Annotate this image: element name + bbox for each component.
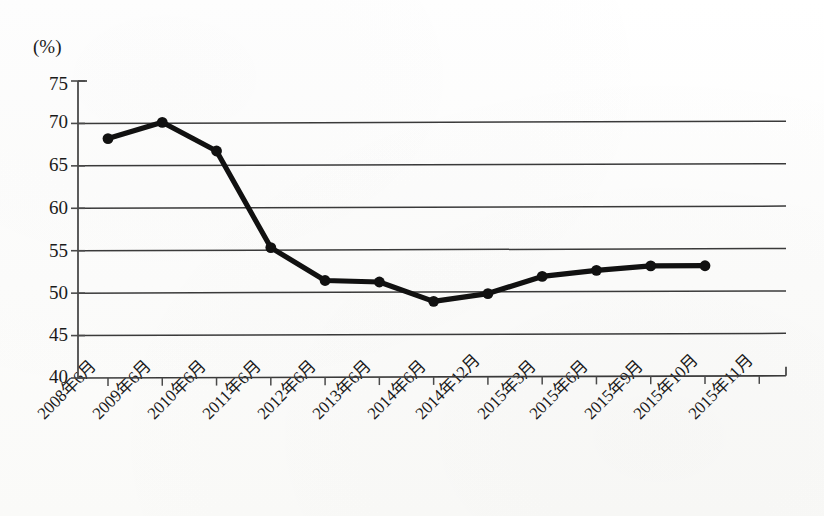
gridline-50 <box>78 291 786 293</box>
chart-container: (%) 75 70 65 60 55 50 45 40 2008年6月 2009… <box>0 0 824 516</box>
data-point-3 <box>265 242 276 253</box>
gridline-55 <box>78 249 786 251</box>
gridline-65 <box>78 164 786 166</box>
gridline-40 <box>78 376 786 378</box>
data-point-group <box>103 117 711 307</box>
data-point-0 <box>103 133 114 144</box>
data-point-9 <box>591 265 602 276</box>
data-point-7 <box>483 288 494 299</box>
data-point-8 <box>537 271 548 282</box>
data-point-4 <box>320 275 331 286</box>
data-point-11 <box>700 260 711 271</box>
data-point-10 <box>645 261 656 272</box>
gridline-group <box>78 121 786 378</box>
data-point-6 <box>428 296 439 307</box>
data-point-1 <box>157 117 168 128</box>
gridline-45 <box>78 333 786 335</box>
gridline-60 <box>78 206 786 208</box>
gridline-70 <box>78 121 786 123</box>
data-point-2 <box>211 146 222 157</box>
data-line <box>108 122 705 301</box>
plot-area <box>0 0 824 516</box>
data-point-5 <box>374 277 385 288</box>
